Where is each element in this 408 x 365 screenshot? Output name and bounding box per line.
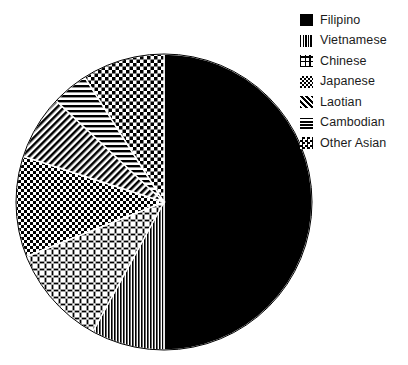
swatch-solid-black <box>300 14 313 26</box>
legend-label: Chinese <box>320 55 367 68</box>
legend-item-cambodian: Cambodian <box>300 113 404 134</box>
legend-label: Japanese <box>320 75 375 88</box>
swatch-cross-dots <box>300 55 313 67</box>
swatch-checkerboard-fine <box>300 137 313 149</box>
swatch-checkerboard-coarse <box>300 76 313 88</box>
legend-item-chinese: Chinese <box>300 51 404 72</box>
legend-item-filipino: Filipino <box>300 10 404 31</box>
legend-label: Other Asian <box>320 137 386 150</box>
legend-item-other-asian: Other Asian <box>300 133 404 154</box>
legend-label: Vietnamese <box>320 34 387 47</box>
legend-label: Filipino <box>320 14 360 27</box>
legend-item-japanese: Japanese <box>300 72 404 93</box>
legend-label: Cambodian <box>320 116 385 129</box>
legend-item-vietnamese: Vietnamese <box>300 31 404 52</box>
chart-legend: Filipino Vietnamese Chinese Japanese Lao… <box>300 10 404 154</box>
pie-chart-figure: Filipino Vietnamese Chinese Japanese Lao… <box>0 0 408 365</box>
swatch-diagonal-hatch <box>300 96 313 108</box>
swatch-vertical-stripes <box>300 35 313 47</box>
legend-item-laotian: Laotian <box>300 92 404 113</box>
pie-slice <box>164 54 312 350</box>
legend-label: Laotian <box>320 96 362 109</box>
swatch-horizontal-lines <box>300 117 313 129</box>
